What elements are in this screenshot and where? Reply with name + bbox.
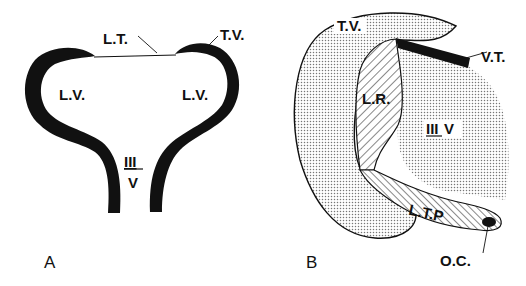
label-oc: O.C. bbox=[440, 252, 471, 269]
label-third-v-numeral-a: III bbox=[124, 153, 137, 170]
lamina-terminalis-line bbox=[94, 55, 176, 57]
label-vt: V.T. bbox=[481, 48, 505, 65]
panel-b: T.V. V.T. L.R. III V L.T.P O.C. B bbox=[294, 13, 508, 272]
label-tv-b: T.V. bbox=[337, 17, 361, 34]
lt-leader bbox=[138, 36, 157, 53]
panel-label-a: A bbox=[44, 253, 56, 272]
panel-label-b: B bbox=[306, 253, 317, 272]
label-third-v-letter-a: V bbox=[128, 174, 138, 191]
label-lv-left: L.V. bbox=[59, 86, 85, 103]
left-ventricle-wall bbox=[25, 48, 120, 213]
right-ventricle-wall bbox=[150, 43, 239, 212]
label-lv-right: L.V. bbox=[182, 86, 208, 103]
label-lr: L.R. bbox=[362, 90, 390, 107]
label-third-v-numeral-b: III bbox=[426, 120, 439, 137]
anatomy-figure: L.T. T.V. L.V. L.V. III V A T.V. V.T. L.… bbox=[0, 0, 526, 286]
label-third-v-letter-b: V bbox=[444, 120, 454, 137]
optic-chiasm bbox=[482, 217, 496, 227]
label-lt: L.T. bbox=[103, 30, 128, 47]
label-tv-a: T.V. bbox=[220, 26, 244, 43]
tv-leader bbox=[208, 36, 218, 46]
panel-a: L.T. T.V. L.V. L.V. III V A bbox=[25, 26, 244, 272]
